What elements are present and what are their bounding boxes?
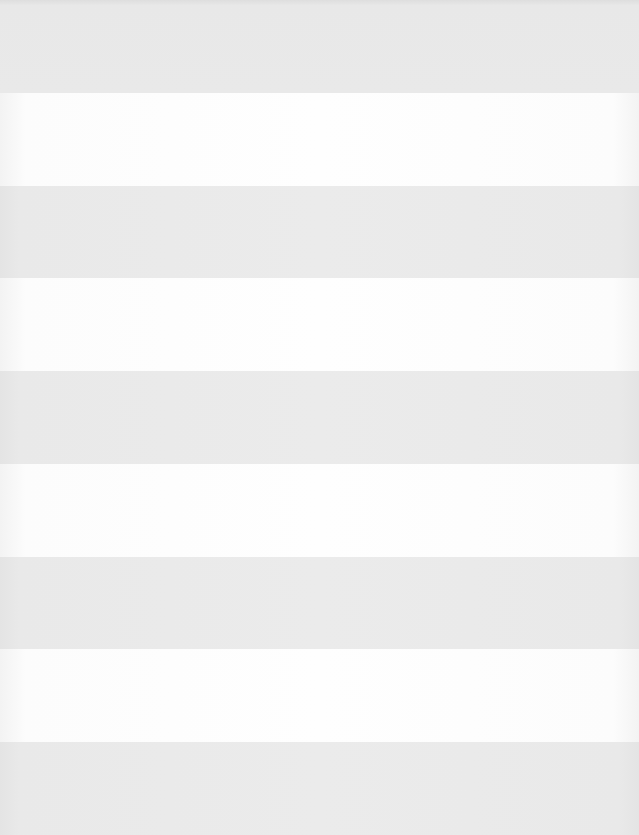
stripe-band-3 bbox=[0, 186, 639, 279]
stripe-band-8 bbox=[0, 649, 639, 742]
stripe-band-7 bbox=[0, 557, 639, 650]
stripe-band-5 bbox=[0, 371, 639, 464]
stripe-band-1 bbox=[0, 0, 639, 93]
stripe-band-6 bbox=[0, 464, 639, 557]
striped-canvas bbox=[0, 0, 639, 835]
stripe-band-9 bbox=[0, 742, 639, 835]
stripe-band-2 bbox=[0, 93, 639, 186]
stripe-band-4 bbox=[0, 278, 639, 371]
